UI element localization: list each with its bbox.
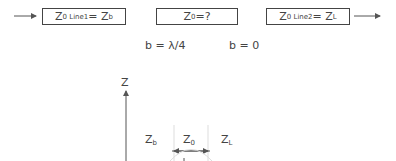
label-zb: Zb: [145, 133, 157, 147]
box-line1-sub: 0 Line1: [63, 13, 89, 21]
box-line2-sub: 0 Line2: [287, 13, 313, 21]
box-line2: Z0 Line2 = ZL: [266, 8, 350, 25]
box-unknown-rest: =?: [195, 10, 210, 23]
box-line2-rest-sub: L: [333, 13, 337, 21]
box-line1-rest-sub: b: [109, 13, 113, 21]
box-line1: Z0 Line1 = Zb: [42, 8, 126, 25]
label-b-zero: b = 0: [229, 39, 259, 52]
label-b-quarter: b = λ/4: [145, 39, 185, 52]
box-line2-rest: = Z: [313, 10, 333, 23]
label-zb-z: Z: [145, 133, 153, 146]
label-zb-sub: b: [153, 139, 157, 147]
label-z0: Z0: [183, 133, 195, 147]
box-line1-z: Z: [55, 10, 63, 23]
label-z0-sub: 0: [191, 139, 195, 147]
box-line2-z: Z: [279, 10, 287, 23]
label-z0-z: Z: [183, 133, 191, 146]
box-line1-rest: = Z: [88, 10, 108, 23]
label-zl-z: Z: [221, 133, 229, 146]
label-zl-sub: L: [229, 139, 233, 147]
axis-label-z: Z: [121, 76, 129, 89]
box-unknown: Z0 =?: [156, 8, 238, 25]
box-unknown-z: Z: [183, 10, 191, 23]
label-zl: ZL: [221, 133, 232, 147]
